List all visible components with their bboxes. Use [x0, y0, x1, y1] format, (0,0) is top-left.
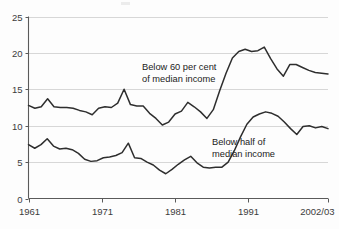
- annotation-lower-line-1: Below half of: [212, 137, 266, 147]
- x-tick-label-2002/03: 2002/03: [300, 206, 334, 217]
- y-tick-group: 0510152025: [12, 12, 29, 205]
- annotation-upper-line-2: of median income: [142, 74, 215, 84]
- y-tick-label-25: 25: [12, 12, 23, 23]
- gridlines-group: [29, 18, 329, 163]
- scan-artifact: [121, 2, 130, 5]
- annotation-lower-line-2: median income: [212, 149, 275, 159]
- annotation-lower-series: Below half of median income: [212, 137, 275, 159]
- y-tick-label-20: 20: [12, 48, 23, 59]
- annotation-upper-series: Below 60 per cent of median income: [142, 62, 217, 84]
- y-tick-label-10: 10: [12, 121, 23, 132]
- series-line-0: [29, 47, 329, 125]
- y-tick-label-0: 0: [17, 194, 22, 205]
- x-tick-group: 19611971198119912002/03: [19, 199, 335, 217]
- x-tick-label-1971: 1971: [92, 206, 113, 217]
- x-tick-label-1981: 1981: [165, 206, 186, 217]
- annotation-upper-line-1: Below 60 per cent: [142, 62, 217, 72]
- y-tick-label-15: 15: [12, 84, 23, 95]
- poverty-line-chart: 0510152025 19611971198119912002/03 Below…: [0, 0, 339, 229]
- x-tick-label-1961: 1961: [19, 206, 40, 217]
- chart-container: 0510152025 19611971198119912002/03 Below…: [0, 0, 339, 229]
- series-line-1: [29, 112, 329, 174]
- y-tick-label-5: 5: [17, 157, 22, 168]
- x-tick-label-1991: 1991: [238, 206, 259, 217]
